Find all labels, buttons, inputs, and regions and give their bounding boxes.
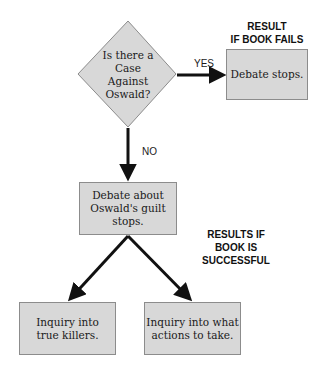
node-guilt-debate-stops: Debate about Oswald's guilt stops. <box>79 182 177 235</box>
node-inquiry-actions: Inquiry into what actions to take. <box>144 302 241 355</box>
yes-label: YES <box>194 58 214 69</box>
no-label: NO <box>142 146 157 157</box>
flowchart: Is there a Case Against Oswald? YES NO R… <box>0 0 325 373</box>
heading-result-if-fails: RESULT IF BOOK FAILS <box>222 20 312 46</box>
node-inquiry-killers: Inquiry into true killers. <box>19 302 116 355</box>
node-debate-stops: Debate stops. <box>226 49 308 100</box>
arrow-to-inquiry-actions <box>128 236 189 298</box>
arrow-to-inquiry-killers <box>71 236 128 298</box>
heading-results-if-successful: RESULTS IF BOOK IS SUCCESSFUL <box>196 228 276 267</box>
decision-text: Is there a Case Against Oswald? <box>92 44 164 106</box>
